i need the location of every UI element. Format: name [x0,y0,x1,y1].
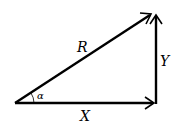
vector-diagram: R Y X α [0,0,177,129]
label-alpha: α [37,90,44,101]
label-r: R [76,39,88,55]
vector-r [15,13,151,103]
label-y: Y [160,53,171,69]
angle-arc [31,93,34,103]
label-x: X [79,108,91,124]
